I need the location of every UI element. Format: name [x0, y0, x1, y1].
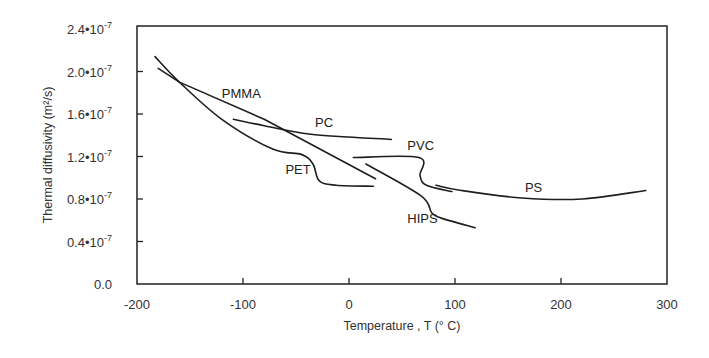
- series-label-pvc: PVC: [407, 138, 434, 153]
- thermal-diffusivity-chart: 0.00.4•10-70.8•10-71.2•10-71.6•10-72.0•1…: [0, 0, 709, 358]
- x-tick-label: -100: [230, 297, 256, 312]
- x-axis-title: Temperature , T (° C): [343, 319, 460, 333]
- series-label-pet: PET: [285, 162, 310, 177]
- y-tick-label: 0.8•10-7: [67, 190, 112, 207]
- curve-pet: [155, 57, 373, 187]
- series-label-hips: HIPS: [407, 211, 438, 226]
- series-label-pmma: PMMA: [222, 86, 261, 101]
- y-tick-label: 0.4•10-7: [67, 233, 112, 250]
- y-tick-label: 0.0: [94, 277, 112, 292]
- y-axis-title: Thermal diffusivity (m²/s): [41, 87, 55, 224]
- series-label-ps: PS: [525, 180, 543, 195]
- x-tick-label: 200: [550, 297, 572, 312]
- y-tick-label: 2.4•10-7: [67, 20, 112, 37]
- plot-frame-rect: [137, 26, 667, 284]
- curve-pc: [233, 119, 391, 139]
- x-tick-label: 100: [444, 297, 466, 312]
- plot-frame: [137, 26, 667, 284]
- y-tick-label: 2.0•10-7: [67, 63, 112, 80]
- x-tick-label: 300: [656, 297, 678, 312]
- curve-pmma: [158, 68, 375, 179]
- y-tick-label: 1.6•10-7: [67, 105, 112, 122]
- series-label-pc: PC: [315, 115, 333, 130]
- x-tick-label: -200: [124, 297, 150, 312]
- x-axis-ticks: -200-1000100200300: [124, 278, 678, 312]
- data-curves: [155, 57, 646, 228]
- x-tick-label: 0: [345, 297, 352, 312]
- y-axis-ticks: 0.00.4•10-70.8•10-71.2•10-71.6•10-72.0•1…: [67, 20, 143, 292]
- y-tick-label: 1.2•10-7: [67, 148, 112, 165]
